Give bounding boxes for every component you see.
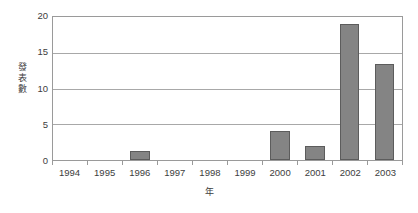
x-axis-tick-labels: 1994 1995 1996 1997 1998 1999 2000 2001 …	[52, 167, 403, 181]
y-tick-label: 20	[28, 11, 48, 21]
bar-2002[interactable]	[340, 24, 360, 160]
y-tick-label: 15	[28, 47, 48, 57]
bar-2001[interactable]	[305, 146, 325, 160]
x-tick-mark	[87, 161, 88, 165]
x-tick-mark	[227, 161, 228, 165]
x-tick-label-1997: 1997	[157, 167, 192, 181]
plot-area	[52, 16, 403, 161]
y-tick-label: 0	[28, 156, 48, 166]
bar-slot-1995	[88, 17, 123, 160]
bar-slot-2002	[332, 17, 367, 160]
bar-2003[interactable]	[375, 64, 395, 160]
bar-slot-1994	[53, 17, 88, 160]
x-tick-label-1996: 1996	[122, 167, 157, 181]
bar-2000[interactable]	[270, 131, 290, 160]
x-tick-label-2000: 2000	[263, 167, 298, 181]
bar-slot-1998	[193, 17, 228, 160]
x-axis-tick-marks	[52, 161, 403, 166]
bar-slot-2001	[297, 17, 332, 160]
bar-slot-1996	[123, 17, 158, 160]
x-tick-mark	[367, 161, 368, 165]
x-tick-label-1998: 1998	[192, 167, 227, 181]
bar-slot-1999	[228, 17, 263, 160]
x-tick-mark	[122, 161, 123, 165]
x-tick-mark	[402, 161, 403, 165]
x-tick-mark	[297, 161, 298, 165]
x-tick-label-1994: 1994	[52, 167, 87, 181]
x-tick-label-2003: 2003	[368, 167, 403, 181]
y-axis-tick-labels: 20 15 10 5 0	[28, 0, 48, 213]
bar-slot-1997	[158, 17, 193, 160]
x-tick-label-2002: 2002	[333, 167, 368, 181]
bar-1996[interactable]	[130, 151, 150, 160]
bar-slot-2000	[262, 17, 297, 160]
x-tick-label-2001: 2001	[298, 167, 333, 181]
x-tick-mark	[52, 161, 53, 165]
x-tick-label-1999: 1999	[227, 167, 262, 181]
bar-slot-2003	[367, 17, 402, 160]
y-axis-title: 發表數	[15, 62, 29, 95]
x-tick-mark	[157, 161, 158, 165]
x-tick-mark	[262, 161, 263, 165]
x-axis-title: 年	[0, 187, 418, 198]
x-tick-mark	[332, 161, 333, 165]
x-tick-label-1995: 1995	[87, 167, 122, 181]
bars-layer	[53, 17, 402, 160]
x-tick-mark	[192, 161, 193, 165]
y-tick-label: 5	[28, 120, 48, 130]
bar-chart-figure: 發表數 20 15 10 5 0	[0, 0, 418, 213]
y-tick-label: 10	[28, 84, 48, 94]
